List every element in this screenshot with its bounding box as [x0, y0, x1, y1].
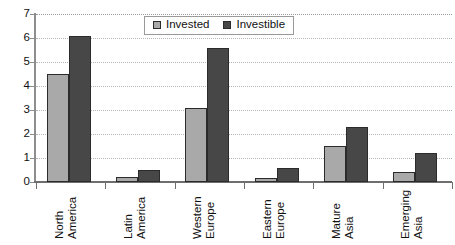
- category-label-line: North: [53, 197, 66, 239]
- y-axis-line: [34, 13, 36, 183]
- investible-swatch-icon: [223, 21, 231, 29]
- category-label: NorthAmerica: [53, 191, 105, 243]
- y-axis-tick-label: 3: [4, 104, 30, 116]
- bar: [415, 153, 437, 182]
- bar: [116, 177, 138, 182]
- category-label: EmergingAsia: [399, 191, 451, 243]
- bar: [69, 36, 91, 182]
- category-label-line: Mature: [330, 203, 343, 239]
- x-axis-tick: [175, 182, 176, 189]
- bar: [346, 127, 368, 182]
- bar-chart: 01234567 NorthAmericaLatinAmericaWestern…: [0, 0, 455, 245]
- y-axis-tick-label: 0: [4, 176, 30, 188]
- category-label-line: Europe: [204, 196, 217, 239]
- category-label-line: Europe: [273, 199, 286, 239]
- category-label-line: Eastern: [261, 199, 274, 239]
- category-label: EasternEurope: [261, 191, 313, 243]
- invested-swatch-icon: [153, 21, 161, 29]
- y-axis-tick-label: 4: [4, 80, 30, 92]
- y-axis-tick-label: 1: [4, 152, 30, 164]
- y-axis-tick-label: 5: [4, 56, 30, 68]
- x-axis-tick: [383, 182, 384, 189]
- gridline: [36, 86, 452, 87]
- category-label-line: Asia: [342, 203, 355, 239]
- x-axis-line: [34, 181, 452, 183]
- bar: [185, 108, 207, 182]
- x-axis-tick: [36, 182, 37, 189]
- bar: [277, 168, 299, 182]
- bar: [393, 172, 415, 182]
- bar: [255, 178, 277, 182]
- x-axis-tick: [452, 182, 453, 189]
- y-axis-tick-label: 2: [4, 128, 30, 140]
- x-axis-tick: [244, 182, 245, 189]
- gridline: [36, 110, 452, 111]
- legend-label-invested: Invested: [166, 19, 209, 31]
- bar: [138, 170, 160, 182]
- legend-label-investible: Investible: [236, 19, 285, 31]
- bar: [324, 146, 346, 182]
- bar: [207, 48, 229, 182]
- gridline: [36, 134, 452, 135]
- category-label-line: Western: [191, 196, 204, 239]
- category-label-line: Asia: [412, 190, 425, 239]
- gridline: [36, 62, 452, 63]
- y-axis-tick-label: 7: [4, 8, 30, 20]
- bar: [47, 74, 69, 182]
- x-axis-tick: [105, 182, 106, 189]
- y-axis-tick-label: 6: [4, 32, 30, 44]
- plot-area: [36, 14, 452, 182]
- category-label-line: America: [134, 197, 147, 239]
- category-label: MatureAsia: [330, 191, 382, 243]
- legend-item-investible: Investible: [223, 19, 285, 31]
- x-axis-tick: [313, 182, 314, 189]
- category-label: WesternEurope: [191, 191, 243, 243]
- category-label: LatinAmerica: [122, 191, 174, 243]
- gridline: [36, 14, 452, 15]
- category-label-line: America: [65, 197, 78, 239]
- gridline: [36, 158, 452, 159]
- chart-legend: Invested Investible: [144, 16, 294, 35]
- gridline: [36, 38, 452, 39]
- category-label-line: Emerging: [399, 190, 412, 239]
- legend-item-invested: Invested: [153, 19, 209, 31]
- category-label-line: Latin: [122, 197, 135, 239]
